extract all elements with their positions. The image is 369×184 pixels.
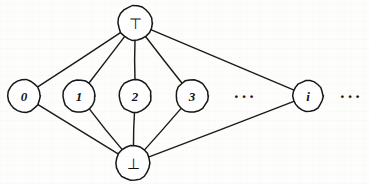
node-0[interactable]: 0 bbox=[8, 79, 41, 112]
edge-top-3 bbox=[145, 36, 182, 84]
edge-bottom-i bbox=[148, 101, 294, 157]
node-bottom[interactable]: ⊥ bbox=[116, 145, 150, 180]
edge-bottom-1 bbox=[89, 108, 123, 150]
edge-bottom-2 bbox=[133, 111, 134, 146]
edge-bottom-3 bbox=[144, 108, 182, 151]
ellipsis-middle: ··· bbox=[233, 87, 256, 106]
edge-top-1 bbox=[88, 36, 125, 84]
node-i-label: i bbox=[306, 89, 310, 104]
ellipsis-right: ··· bbox=[339, 87, 362, 106]
diagram-canvas: ⊤0123i⊥ ······ bbox=[0, 0, 369, 184]
node-bottom-label: ⊥ bbox=[127, 156, 140, 172]
node-top[interactable]: ⊤ bbox=[118, 5, 152, 40]
node-0-label: 0 bbox=[21, 89, 28, 104]
node-top-label: ⊤ bbox=[129, 16, 142, 32]
node-1[interactable]: 1 bbox=[63, 80, 95, 112]
edge-top-i bbox=[150, 29, 294, 90]
node-2-label: 2 bbox=[131, 89, 139, 104]
node-3[interactable]: 3 bbox=[176, 80, 208, 112]
node-3-label: 3 bbox=[188, 89, 196, 104]
nodes-group: ⊤0123i⊥ bbox=[8, 5, 324, 180]
edge-top-0 bbox=[37, 32, 121, 87]
node-i[interactable]: i bbox=[293, 80, 324, 111]
node-1-label: 1 bbox=[76, 89, 83, 104]
node-2[interactable]: 2 bbox=[119, 79, 151, 112]
hasse-diagram-figure: ⊤0123i⊥ ······ bbox=[0, 0, 369, 184]
